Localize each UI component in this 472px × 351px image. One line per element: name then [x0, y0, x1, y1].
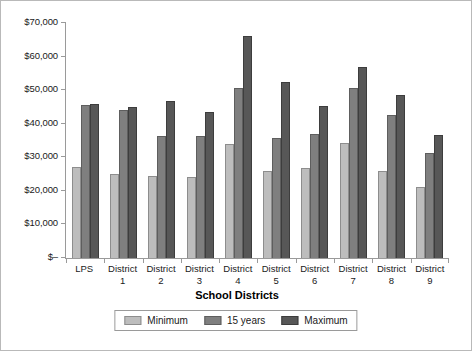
x-axis-tick-label-line2: 2: [142, 275, 180, 287]
bar: [340, 143, 349, 258]
x-axis-tick-label: District8: [372, 263, 410, 287]
x-axis-tick-label-line2: 7: [334, 275, 372, 287]
bar: [358, 67, 367, 258]
bar-group: [296, 23, 334, 258]
legend-item-label: Minimum: [147, 315, 188, 326]
bar: [157, 136, 166, 258]
bar-group: [334, 23, 372, 258]
x-axis-tick-label-line2: 3: [180, 275, 218, 287]
bar: [378, 171, 387, 258]
bar-group: [143, 23, 181, 258]
y-axis-tick-label: $40,000: [24, 117, 58, 128]
x-axis-tick-label-line2: 1: [103, 275, 141, 287]
x-axis-tick-label: District6: [295, 263, 333, 287]
x-axis-tick-label-line1: District: [262, 263, 291, 274]
bar-group: [257, 23, 295, 258]
x-axis-tick-label-line2: 6: [295, 275, 333, 287]
bar: [434, 135, 443, 258]
x-axis-tick-label: District4: [219, 263, 257, 287]
bar: [272, 138, 281, 258]
bar: [243, 36, 252, 258]
x-axis-tick-label-line2: 4: [219, 275, 257, 287]
x-axis-tick-label-line1: District: [339, 263, 368, 274]
x-axis-tick-label-line1: District: [223, 263, 252, 274]
bar-groups: [66, 23, 449, 258]
x-axis-tick-label: District9: [411, 263, 449, 287]
x-axis-tick-label: District7: [334, 263, 372, 287]
x-axis-tick-label: District3: [180, 263, 218, 287]
x-axis-tick-label-line1: District: [415, 263, 444, 274]
legend-swatch-15-years: [204, 316, 221, 325]
y-axis-tick-label: $–: [48, 251, 58, 262]
x-axis-title: School Districts: [1, 289, 472, 301]
bar: [166, 101, 175, 258]
y-axis-tick-label: $30,000: [24, 150, 58, 161]
x-axis-tick-label: District2: [142, 263, 180, 287]
x-axis-tick-label-line1: District: [300, 263, 329, 274]
bar-group: [104, 23, 142, 258]
bar: [310, 134, 319, 258]
bar-group: [66, 23, 104, 258]
bar: [187, 177, 196, 258]
x-axis-tick-label-line2: 5: [257, 275, 295, 287]
legend-item[interactable]: 15 years: [204, 315, 265, 326]
bar: [128, 107, 137, 258]
x-axis-tick-label-line1: District: [108, 263, 137, 274]
x-axis-tick-label-line2: 8: [372, 275, 410, 287]
chart-legend: Minimum15 yearsMaximum: [114, 310, 357, 331]
bar: [90, 104, 99, 258]
bar: [148, 176, 157, 258]
bar: [81, 105, 90, 258]
bar: [319, 106, 328, 258]
x-axis-tick-label-line1: LPS: [75, 263, 93, 274]
y-axis-tick-label: $10,000: [24, 217, 58, 228]
x-axis-tick-label-line1: District: [185, 263, 214, 274]
bar: [416, 187, 425, 258]
x-axis-tick-label: LPS: [65, 263, 103, 287]
plot-area: $–$10,000$20,000$30,000$40,000$50,000$60…: [65, 23, 449, 259]
y-axis-tick-label: $60,000: [24, 50, 58, 61]
bar: [281, 82, 290, 258]
x-axis-tick-label-line1: District: [377, 263, 406, 274]
legend-item-label: Maximum: [304, 315, 347, 326]
bar-group: [372, 23, 410, 258]
bar-group: [411, 23, 449, 258]
x-axis-tick-label-line2: 9: [411, 275, 449, 287]
y-axis-tick-label: $20,000: [24, 184, 58, 195]
x-axis-tick-labels: LPSDistrict1District2District3District4D…: [65, 263, 449, 287]
legend-swatch-minimum: [124, 316, 141, 325]
bar: [119, 110, 128, 258]
bar: [387, 115, 396, 258]
legend-swatch-maximum: [281, 316, 298, 325]
bar: [396, 95, 405, 258]
legend-item[interactable]: Minimum: [124, 315, 188, 326]
bar: [425, 153, 434, 258]
bar-group: [219, 23, 257, 258]
bar: [205, 112, 214, 258]
bar: [110, 174, 119, 258]
x-axis-tick-label: District5: [257, 263, 295, 287]
bar-chart-figure: $–$10,000$20,000$30,000$40,000$50,000$60…: [0, 0, 472, 351]
legend-item[interactable]: Maximum: [281, 315, 347, 326]
bar: [196, 136, 205, 258]
x-axis-tick-label: District1: [103, 263, 141, 287]
bar: [301, 168, 310, 258]
bar: [72, 167, 81, 258]
bar: [234, 88, 243, 258]
bar-group: [181, 23, 219, 258]
y-axis-tick-label: $50,000: [24, 83, 58, 94]
bar: [225, 144, 234, 258]
y-axis-tick-label: $70,000: [24, 16, 58, 27]
bar: [263, 171, 272, 258]
x-axis-tick-label-line1: District: [147, 263, 176, 274]
legend-item-label: 15 years: [227, 315, 265, 326]
bar: [349, 88, 358, 258]
